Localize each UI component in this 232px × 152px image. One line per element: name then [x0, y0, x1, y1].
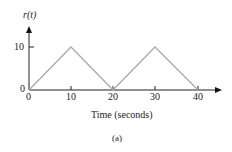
x-axis-label: Time (seconds): [91, 110, 153, 120]
y-axis-label-t: (t): [27, 9, 36, 20]
series-r-t: [29, 47, 198, 90]
x-axis-arrow-icon: [215, 87, 222, 93]
figure-caption: (a): [112, 133, 122, 143]
y-tick-label-0: 0: [20, 84, 25, 94]
x-tick-label-30: 30: [150, 92, 160, 102]
x-tick-label-0: 0: [26, 92, 31, 102]
x-tick-label-20: 20: [108, 92, 118, 102]
y-axis-arrow-icon: [26, 26, 32, 33]
x-tick-label-10: 10: [66, 92, 76, 102]
y-axis-label: r(t): [23, 10, 36, 20]
y-tick-label-10: 10: [14, 42, 24, 52]
chart-plot: [0, 0, 232, 152]
x-tick-label-40: 40: [193, 92, 203, 102]
